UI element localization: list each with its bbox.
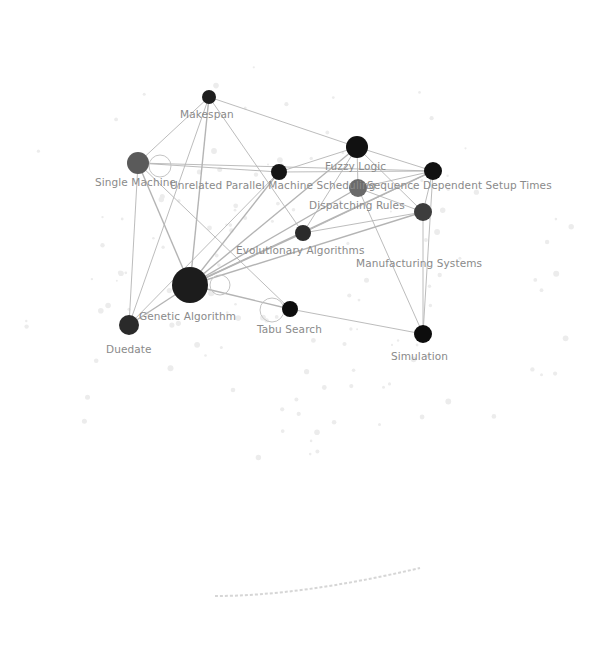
edge-evolutionary-algorithms-manufacturing-systems [303,212,423,233]
node-makespan[interactable] [202,90,216,104]
node-evolutionary-algorithms[interactable] [295,225,311,241]
node-genetic-algorithm[interactable] [172,267,208,303]
node-tabu-search[interactable] [282,301,298,317]
edge-sequence-dependent-setup-times-simulation [423,171,433,334]
edge-makespan-single-machine [138,97,209,163]
node-label-evolutionary-algorithms: Evolutionary Algorithms [236,245,364,256]
edges [129,97,433,334]
node-label-simulation: Simulation [391,351,448,362]
edge-makespan-fuzzy-logic [209,97,357,147]
node-fuzzy-logic[interactable] [346,136,368,158]
node-sequence-dependent-setup-times[interactable] [424,162,442,180]
edge-evolutionary-algorithms-genetic-algorithm [190,233,303,285]
figure-caption [150,636,510,648]
node-label-duedate: Duedate [106,344,152,355]
node-label-sequence-dependent-setup-times: Sequence Dependent Setup Times [367,180,552,191]
node-label-unrelated-parallel-machine: Unrelated Parallel Machine Scheduling [170,180,375,191]
node-label-makespan: Makespan [180,109,234,120]
node-unrelated-parallel-machine[interactable] [271,164,287,180]
node-label-fuzzy-logic: Fuzzy Logic [325,161,386,172]
ring-marker [149,155,171,177]
ring-marker [260,298,284,322]
node-simulation[interactable] [414,325,432,343]
node-label-manufacturing-systems: Manufacturing Systems [356,258,482,269]
node-label-genetic-algorithm: Genetic Algorithm [139,311,236,322]
node-single-machine[interactable] [127,152,149,174]
node-manufacturing-systems[interactable] [414,203,432,221]
node-label-dispatching-rules: Dispatching Rules [309,200,405,211]
node-duedate[interactable] [119,315,139,335]
node-label-single-machine: Single Machine [95,177,176,188]
node-label-tabu-search: Tabu Search [257,324,322,335]
